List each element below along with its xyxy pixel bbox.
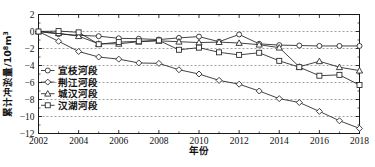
series-marker-diamond — [176, 67, 182, 73]
series-marker-circle — [337, 43, 342, 48]
series-marker-diamond — [316, 108, 322, 114]
legend-item-2[interactable]: 荆江河段 — [41, 77, 98, 88]
x-axis-tick-label: 2018 — [350, 136, 369, 146]
x-axis-title: 年份 — [189, 145, 209, 156]
x-axis-tick-label: 2004 — [69, 136, 88, 146]
legend-item-3[interactable]: 城汉河段 — [41, 88, 98, 99]
figure-container: 20−2−4−6−8−10−12 20022004200620082010201… — [0, 0, 375, 167]
legend-marker-square — [45, 103, 50, 108]
series-marker-circle — [317, 43, 322, 48]
legend-item-1[interactable]: 宜枝河段 — [41, 65, 98, 76]
series-marker-diamond — [56, 38, 62, 44]
series-marker-square — [96, 42, 101, 47]
legend-label: 汉湖河段 — [58, 100, 98, 111]
series-marker-square — [76, 30, 81, 35]
y-axis-tick-label: −6 — [24, 78, 34, 88]
series-marker-diamond — [336, 118, 342, 124]
x-axis-tick-label: 2006 — [109, 136, 128, 146]
series-marker-circle — [197, 34, 202, 39]
x-axis-tick-label: 2012 — [230, 136, 249, 146]
y-axis-tick-label: 0 — [30, 27, 35, 37]
series-marker-circle — [237, 32, 242, 37]
series-marker-diamond — [357, 125, 363, 131]
series-marker-diamond — [216, 77, 222, 83]
x-axis-tick-label: 2016 — [310, 136, 329, 146]
series-marker-diamond — [116, 56, 122, 62]
series-marker-square — [357, 83, 362, 88]
series-marker-diamond — [196, 71, 202, 77]
series-marker-diamond — [96, 54, 102, 60]
series-marker-square — [237, 52, 242, 57]
y-axis-tick-label: −8 — [24, 95, 34, 105]
series-marker-triangle — [316, 58, 322, 64]
series-marker-diamond — [156, 60, 162, 66]
series-marker-diamond — [276, 96, 282, 102]
x-axis-tick-label: 2002 — [29, 136, 48, 146]
series-marker-square — [136, 39, 141, 44]
legend-item-4[interactable]: 汉湖河段 — [41, 100, 98, 111]
y-axis-tick-labels: 20−2−4−6−8−10−12 — [20, 10, 35, 139]
legend-label: 荆江河段 — [58, 77, 98, 88]
series-marker-square — [197, 45, 202, 50]
legend-marker-circle — [45, 68, 50, 73]
legend-marker-diamond — [45, 79, 51, 85]
series-marker-diamond — [136, 60, 142, 66]
series-marker-square — [56, 29, 61, 34]
series-marker-square — [277, 58, 282, 63]
x-axis-tick-label: 2008 — [149, 136, 168, 146]
series-marker-square — [116, 40, 121, 45]
series-marker-diamond — [256, 88, 262, 94]
y-axis-tick-label: −10 — [20, 112, 35, 122]
series-marker-square — [217, 50, 222, 55]
cumulative-scour-deposition-line-chart: 20−2−4−6−8−10−12 20022004200620082010201… — [0, 0, 375, 167]
series-marker-square — [257, 50, 262, 55]
series-marker-diamond — [296, 99, 302, 105]
series-marker-square — [317, 73, 322, 78]
y-axis-title: 累计冲淤量/108m3 — [2, 31, 13, 117]
x-axis-tick-label: 2014 — [270, 136, 289, 146]
series-marker-circle — [357, 43, 362, 48]
series-marker-square — [156, 38, 161, 43]
series-marker-diamond — [236, 81, 242, 87]
chart-legend: 宜枝河段荆江河段城汉河段汉湖河段 — [41, 65, 98, 111]
series-marker-square — [337, 72, 342, 77]
series-marker-circle — [96, 34, 101, 39]
series-marker-square — [176, 47, 181, 52]
legend-label: 城汉河段 — [58, 88, 98, 99]
series-marker-circle — [297, 43, 302, 48]
series-marker-square — [36, 29, 41, 34]
series-marker-square — [297, 65, 302, 70]
legend-label: 宜枝河段 — [58, 65, 98, 76]
series-marker-diamond — [76, 48, 82, 54]
y-axis-tick-label: 2 — [30, 10, 35, 20]
y-axis-tick-label: −2 — [24, 44, 34, 54]
y-axis-tick-label: −4 — [24, 61, 34, 71]
